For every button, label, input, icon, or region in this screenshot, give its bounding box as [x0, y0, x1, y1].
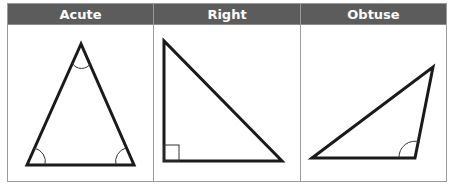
column-right: Right [153, 4, 300, 181]
cell-right [154, 25, 300, 181]
right-triangle-icon [154, 25, 301, 183]
cell-acute [8, 25, 153, 181]
column-acute: Acute [8, 4, 153, 181]
obtuse-triangle-icon [301, 25, 447, 183]
acute-triangle-icon [8, 25, 153, 183]
triangle-types-table: Acute Right Obtuse [7, 3, 447, 182]
header-obtuse: Obtuse [301, 4, 446, 25]
header-right: Right [154, 4, 300, 25]
column-obtuse: Obtuse [300, 4, 446, 181]
header-acute: Acute [8, 4, 153, 25]
cell-obtuse [301, 25, 446, 181]
